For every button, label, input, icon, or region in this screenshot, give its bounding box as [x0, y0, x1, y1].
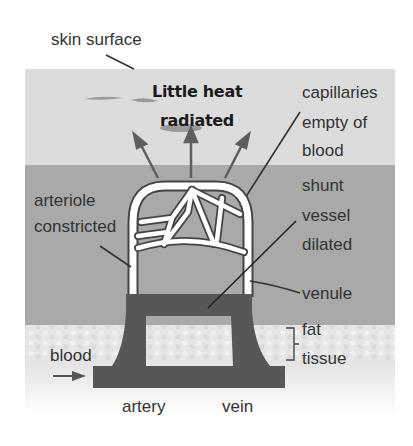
label-vein: vein — [222, 397, 253, 417]
label-constricted: constricted — [34, 217, 116, 237]
label-capillaries: capillaries — [302, 83, 378, 103]
label-little-heat: Little heat — [152, 82, 242, 102]
skin-heat-diagram: skin surface Little heat radiated capill… — [0, 0, 413, 446]
label-arteriole: arteriole — [34, 191, 95, 211]
label-artery: artery — [122, 397, 165, 417]
label-empty-of: empty of — [302, 113, 367, 133]
label-shunt: shunt — [302, 176, 344, 196]
label-venule: venule — [302, 284, 352, 304]
skin-surface-pointer — [106, 55, 134, 69]
label-blood: blood — [50, 346, 92, 366]
label-dilated: dilated — [302, 235, 352, 255]
label-fat: fat — [302, 320, 321, 340]
label-vessel: vessel — [302, 206, 350, 226]
label-radiated: radiated — [160, 111, 234, 131]
label-skin-surface: skin surface — [51, 30, 142, 50]
label-blood-capillaries: blood — [302, 141, 344, 161]
label-tissue: tissue — [302, 349, 346, 369]
